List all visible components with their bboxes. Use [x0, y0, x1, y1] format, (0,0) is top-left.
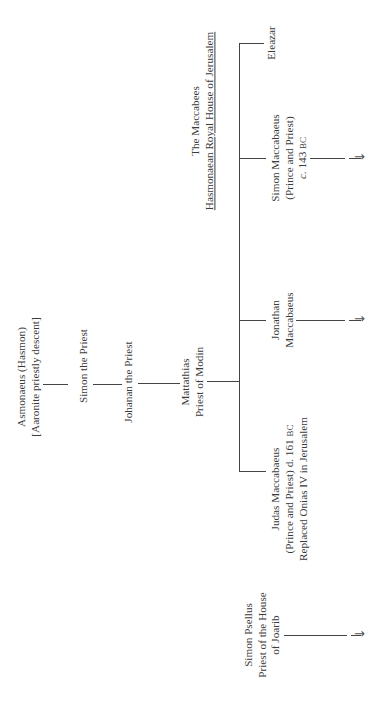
node-judas-name: Judas Maccabaeus	[269, 417, 283, 561]
node-simon-the-priest: Simon the Priest	[77, 329, 91, 403]
node-simon-psellus-name: Simon Psellus	[242, 592, 256, 677]
node-asmonaeus: Asmonaeus (Hasmon) [Aaronite priestly de…	[15, 317, 42, 436]
sibling-bar	[239, 43, 240, 472]
descent-line-simon-psellus	[284, 635, 347, 636]
descent-arrow-icon: →	[354, 629, 365, 639]
branch-jonathan	[239, 320, 266, 321]
circa-label: c.	[296, 171, 308, 179]
branch-simon-maccabaeus	[239, 158, 266, 159]
descent-line-simon-maccabaeus	[310, 158, 345, 159]
title-line-2: Hasmonaean Royal House of Jerusalem	[203, 32, 217, 210]
connector-asmonaeus-simon-line	[43, 384, 68, 385]
descent-arrow-icon: →	[354, 314, 365, 324]
node-asmonaeus-note: [Aaronite priestly descent]	[29, 317, 43, 436]
node-eleazar: Eleazar	[265, 26, 279, 60]
node-mattathias: Mattathias Priest of Modin	[179, 347, 206, 417]
node-judas-title: (Prince and Priest) d. 161 BC	[283, 417, 298, 561]
era-label: BC	[285, 425, 295, 437]
node-jonathan: Jonathan Maccabaeus	[269, 292, 296, 347]
node-asmonaeus-name: Asmonaeus (Hasmon)	[15, 317, 29, 436]
node-simon-the-priest-name: Simon the Priest	[77, 329, 91, 403]
branch-eleazar	[239, 43, 264, 44]
node-simon-maccabaeus-title: (Prince and Priest)	[283, 114, 297, 201]
node-simon-psellus: Simon Psellus Priest of the House of Joa…	[242, 592, 283, 677]
era-label: BC	[298, 137, 308, 149]
node-jonathan-surname: Maccabaeus	[283, 292, 297, 347]
descent-line-jonathan	[296, 320, 345, 321]
node-simon-maccabaeus: Simon Maccabaeus (Prince and Priest) c. …	[269, 114, 311, 201]
connector-mattathias-sons	[207, 381, 240, 382]
year-value: 143	[296, 149, 308, 171]
node-judas-note: Replaced Onias IV in Jerusalem	[297, 417, 311, 561]
branch-judas	[239, 471, 266, 472]
connector-simon-johanan	[93, 384, 122, 385]
node-johanan-name: Johanan the Priest	[122, 341, 136, 422]
judas-title-text: (Prince and Priest) d. 161	[283, 437, 295, 554]
connector-johanan-mattathias	[138, 383, 180, 384]
diagram-title: The Maccabees Hasmonaean Royal House of …	[189, 32, 216, 210]
descent-arrow-icon: →	[354, 152, 365, 162]
title-line-1: The Maccabees	[189, 32, 203, 210]
node-jonathan-name: Jonathan	[269, 292, 283, 347]
node-johanan: Johanan the Priest	[122, 341, 136, 422]
node-simon-maccabaeus-name: Simon Maccabaeus	[269, 114, 283, 201]
node-simon-maccabaeus-date: c. 143 BC	[296, 114, 311, 201]
node-mattathias-title: Priest of Modin	[193, 347, 207, 417]
node-simon-psellus-house: of Joarib	[269, 592, 283, 677]
node-simon-psellus-title: Priest of the House	[255, 592, 269, 677]
node-judas: Judas Maccabaeus (Prince and Priest) d. …	[269, 417, 311, 561]
node-mattathias-name: Mattathias	[179, 347, 193, 417]
node-eleazar-name: Eleazar	[265, 26, 279, 60]
